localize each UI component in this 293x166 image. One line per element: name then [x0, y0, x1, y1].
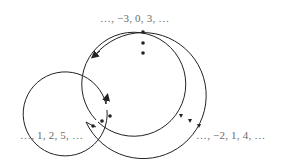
label-right-residue-class: …, −2, 1, 4, …	[196, 129, 266, 141]
inner-ring	[23, 72, 107, 156]
start-arrow-icon	[94, 51, 100, 56]
top-dots	[141, 30, 145, 55]
right-arrow-dots	[179, 114, 201, 128]
label-top-residue-class: …, −3, 0, 3, …	[100, 12, 170, 24]
outer-ring	[86, 33, 206, 159]
spiral-svg	[0, 0, 293, 166]
middle-ring	[82, 32, 186, 136]
left-dots	[91, 114, 112, 128]
spiral-diagram: …, −3, 0, 3, … …, 1, 2, 5, … …, −2, 1, 4…	[0, 0, 293, 166]
label-left-residue-class: …, 1, 2, 5, …	[20, 129, 83, 141]
